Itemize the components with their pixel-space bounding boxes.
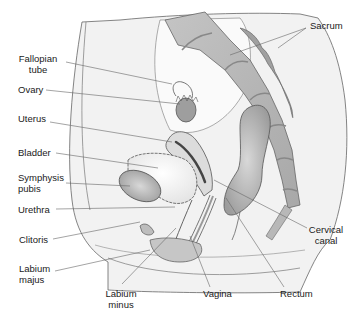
label-cervical-canal-line2: canal [304, 235, 348, 246]
label-labium-minus-line1: Labium [101, 288, 141, 299]
pelvis-diagram [0, 0, 355, 318]
label-bladder: Bladder [18, 147, 51, 158]
label-labium-majus: Labium majus [19, 263, 50, 285]
label-ovary: Ovary [18, 84, 43, 95]
label-symphysis-pubis-line2: pubis [18, 183, 64, 194]
label-labium-minus-line2: minus [101, 299, 141, 310]
label-fallopian-tube-line1: Fallopian [18, 53, 58, 64]
label-sacrum: Sacrum [310, 20, 343, 31]
label-symphysis-pubis: Symphysis pubis [18, 172, 64, 194]
label-symphysis-pubis-line1: Symphysis [18, 172, 64, 183]
label-fallopian-tube: Fallopian tube [18, 53, 58, 75]
label-labium-minus: Labium minus [101, 288, 141, 310]
label-labium-majus-line1: Labium [19, 263, 50, 274]
label-urethra: Urethra [18, 204, 50, 215]
label-cervical-canal: Cervical canal [304, 224, 348, 246]
label-uterus: Uterus [18, 113, 46, 124]
label-rectum: Rectum [280, 288, 313, 299]
label-clitoris: Clitoris [19, 234, 48, 245]
label-vagina: Vagina [203, 288, 232, 299]
label-fallopian-tube-line2: tube [18, 64, 58, 75]
label-cervical-canal-line1: Cervical [304, 224, 348, 235]
label-labium-majus-line2: majus [19, 274, 50, 285]
